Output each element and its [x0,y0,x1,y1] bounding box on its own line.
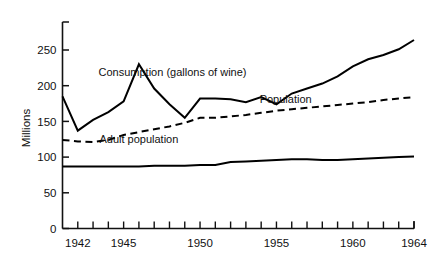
y-tick-label: 250 [37,44,56,56]
consumption-label: Consumption (gallons of wine) [99,66,247,78]
x-tick-label: 1942 [65,237,91,249]
x-tick-label: 1945 [111,237,137,249]
x-tick-label: 1964 [401,237,427,249]
adult-population-label: Adult population [99,133,178,145]
x-tick-label: 1950 [187,237,213,249]
y-axis-title: Millions [20,109,32,148]
y-tick-label: 50 [44,187,57,199]
line-chart: 050100150200250 194219451950195519601964… [0,0,431,268]
y-tick-label: 200 [37,80,56,92]
y-tick-label: 150 [37,116,56,128]
y-tick-label: 0 [50,223,56,235]
x-tick-label: 1955 [264,237,290,249]
population-label: Population [260,93,312,105]
chart-container: 050100150200250 194219451950195519601964… [0,0,431,268]
x-tick-label: 1960 [340,237,366,249]
y-tick-label: 100 [37,151,56,163]
